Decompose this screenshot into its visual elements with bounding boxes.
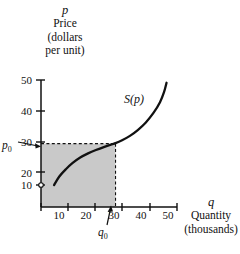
supply-curve-figure: p Price (dollars per unit) q Quantity (t… (0, 0, 240, 254)
origin-circle-marker (39, 183, 44, 188)
shaded-region (41, 144, 116, 207)
quantity-marker-arrow (107, 206, 113, 226)
price-marker-arrow (18, 142, 41, 149)
plot-canvas (0, 0, 240, 254)
